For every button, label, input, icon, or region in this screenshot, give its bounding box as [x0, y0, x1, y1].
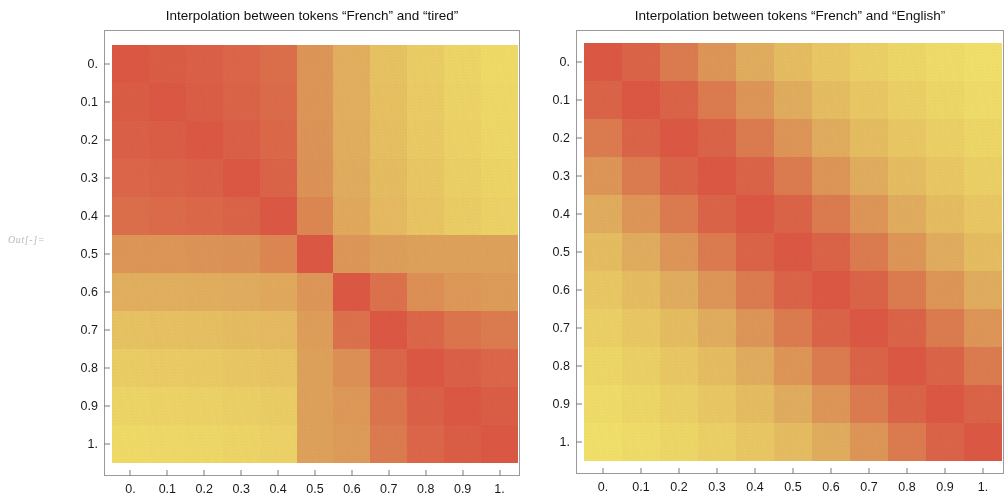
heatmap-cell: [223, 83, 260, 121]
y-tick-mark: [104, 368, 110, 369]
x-tick-label: 0.7: [380, 482, 397, 496]
heatmap-cell: [964, 43, 1002, 81]
heatmap-cell: [584, 157, 622, 195]
heatmap-cell: [149, 235, 186, 273]
heatmap-cell: [736, 385, 774, 423]
heatmap-cell: [850, 119, 888, 157]
heatmap-cell: [622, 81, 660, 119]
y-tick-label: 0.7: [58, 323, 98, 337]
x-tick-label: 0.6: [822, 480, 839, 494]
heatmap-cell: [223, 387, 260, 425]
y-tick-mark: [104, 102, 110, 103]
heatmap-cell: [926, 81, 964, 119]
y-tick-mark: [104, 64, 110, 65]
x-tick-mark: [130, 470, 131, 476]
heatmap-cell: [407, 45, 444, 83]
heatmap-cell: [260, 235, 297, 273]
heatmap-cell: [149, 83, 186, 121]
x-tick-label: 0.4: [746, 480, 763, 494]
x-tick-mark: [204, 470, 205, 476]
heatmap-cell: [622, 309, 660, 347]
heatmap-cell: [812, 423, 850, 461]
y-tick-label: 0.5: [530, 245, 570, 259]
x-tick-mark: [315, 470, 316, 476]
heatmap-cell: [260, 83, 297, 121]
heatmap-cell: [812, 119, 850, 157]
heatmap-cell: [149, 121, 186, 159]
heatmap-cell: [660, 271, 698, 309]
heatmap-cell: [736, 43, 774, 81]
heatmap-cell: [333, 387, 370, 425]
heatmap-raster-right[interactable]: [584, 43, 1002, 461]
heatmap-cell: [850, 157, 888, 195]
heatmap-cell: [186, 349, 223, 387]
y-tick-label: 0.7: [530, 321, 570, 335]
x-tick-mark: [462, 470, 463, 476]
heatmap-cell: [112, 197, 149, 235]
heatmap-cell: [112, 311, 149, 349]
y-tick-label: 0.6: [530, 283, 570, 297]
y-tick-label: 0.4: [530, 207, 570, 221]
x-tick-mark: [388, 470, 389, 476]
heatmap-raster-left[interactable]: [112, 45, 518, 463]
heatmap-cell: [481, 311, 518, 349]
x-tick-mark: [278, 470, 279, 476]
heatmap-cell: [407, 349, 444, 387]
heatmap-cell: [149, 425, 186, 463]
heatmap-cell: [444, 45, 481, 83]
y-tick-label: 0.1: [530, 93, 570, 107]
heatmap-cell: [370, 387, 407, 425]
heatmap-cell: [333, 121, 370, 159]
heatmap-cell: [812, 385, 850, 423]
heatmap-cell: [774, 157, 812, 195]
heatmap-cell: [260, 121, 297, 159]
heatmap-cell: [888, 43, 926, 81]
heatmap-cell: [888, 81, 926, 119]
heatmap-cell: [812, 347, 850, 385]
y-tick-mark: [576, 62, 582, 63]
y-tick-mark: [576, 214, 582, 215]
heatmap-cell: [698, 43, 736, 81]
y-tick-label: 0.8: [530, 359, 570, 373]
x-tick-label: 0.3: [232, 482, 249, 496]
x-tick-label: 1.: [978, 480, 988, 494]
heatmap-cell: [660, 43, 698, 81]
heatmap-cell: [888, 347, 926, 385]
heatmap-cell: [333, 235, 370, 273]
x-tick-label: 0.9: [936, 480, 953, 494]
y-tick-label: 0.9: [530, 397, 570, 411]
heatmap-cell: [407, 235, 444, 273]
heatmap-cell: [964, 233, 1002, 271]
heatmap-cell: [660, 385, 698, 423]
heatmap-cell: [297, 425, 334, 463]
x-tick-mark: [793, 468, 794, 474]
heatmap-cell: [260, 387, 297, 425]
heatmap-cell: [481, 45, 518, 83]
heatmap-cell: [333, 159, 370, 197]
heatmap-cell: [698, 347, 736, 385]
heatmap-cell: [186, 387, 223, 425]
heatmap-cell: [333, 425, 370, 463]
heatmap-cell: [926, 233, 964, 271]
heatmap-cell: [444, 235, 481, 273]
plot-title-left: Interpolation between tokens “French” an…: [104, 8, 520, 23]
heatmap-cell: [698, 81, 736, 119]
x-tick-mark: [167, 470, 168, 476]
heatmap-cell: [850, 233, 888, 271]
heatmap-cell: [850, 271, 888, 309]
heatmap-cell: [774, 271, 812, 309]
heatmap-cell: [736, 81, 774, 119]
heatmap-cell: [444, 121, 481, 159]
heatmap-cell: [297, 387, 334, 425]
x-tick-label: 0.3: [708, 480, 725, 494]
heatmap-cell: [260, 349, 297, 387]
heatmap-cell: [622, 195, 660, 233]
heatmap-cell: [774, 423, 812, 461]
y-tick-label: 0.9: [58, 399, 98, 413]
heatmap-cell: [149, 311, 186, 349]
heatmap-cell: [333, 45, 370, 83]
heatmap-cell: [584, 233, 622, 271]
heatmap-cell: [370, 121, 407, 159]
heatmap-cell: [481, 121, 518, 159]
heatmap-cell: [297, 349, 334, 387]
